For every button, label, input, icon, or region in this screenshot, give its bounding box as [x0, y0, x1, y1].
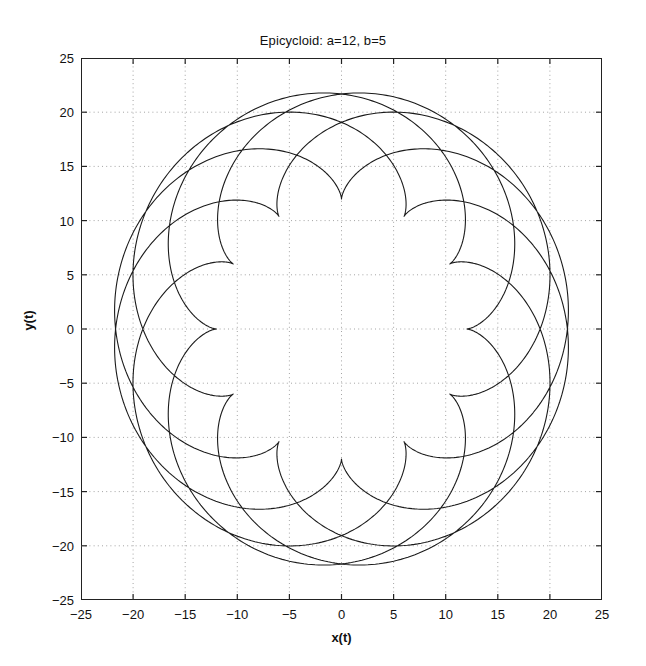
y-tick-label: −20	[34, 538, 74, 553]
x-tick-label: 15	[468, 607, 528, 622]
x-tick-label: 20	[520, 607, 580, 622]
y-axis-label: y(t)	[21, 281, 36, 361]
y-tick-label: 25	[34, 51, 74, 66]
axes-frame	[81, 58, 602, 600]
y-tick-label: 15	[34, 159, 74, 174]
y-tick-label: 0	[34, 322, 74, 337]
x-axis-label: x(t)	[81, 630, 602, 645]
x-tick-label: −25	[51, 607, 111, 622]
x-tick-label: 5	[364, 607, 424, 622]
y-tick-label: −25	[34, 593, 74, 608]
y-tick-label: 5	[34, 267, 74, 282]
figure-canvas: Epicycloid: a=12, b=5 −25−20−15−10−50510…	[0, 0, 646, 666]
x-tick-label: 25	[572, 607, 632, 622]
y-tick-label: 10	[34, 213, 74, 228]
x-tick-label: 0	[312, 607, 372, 622]
x-axis-tick-labels: −25−20−15−10−50510152025	[81, 607, 602, 629]
x-tick-label: −10	[207, 607, 267, 622]
y-tick-label: −5	[34, 376, 74, 391]
chart-title: Epicycloid: a=12, b=5	[0, 33, 646, 48]
y-tick-label: −10	[34, 430, 74, 445]
y-tick-label: 20	[34, 105, 74, 120]
x-tick-label: −20	[103, 607, 163, 622]
x-tick-label: 10	[416, 607, 476, 622]
y-tick-label: −15	[34, 484, 74, 499]
x-tick-label: −5	[259, 607, 319, 622]
x-tick-label: −15	[155, 607, 215, 622]
